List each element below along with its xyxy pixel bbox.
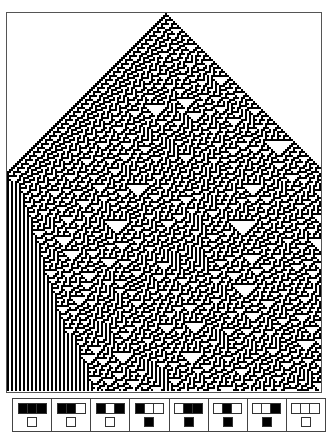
- black-cell-icon: [223, 404, 232, 413]
- white-cell-icon: [232, 404, 241, 413]
- output-black-cell-icon: [262, 417, 272, 427]
- neighborhood-icon: [96, 403, 125, 414]
- white-cell-icon: [292, 404, 301, 413]
- rule-case-101: [91, 399, 130, 431]
- white-cell-icon: [175, 404, 184, 413]
- white-cell-icon: [214, 404, 223, 413]
- white-cell-icon: [310, 404, 319, 413]
- black-cell-icon: [58, 404, 67, 413]
- cellular-automaton-pattern: [6, 12, 322, 393]
- neighborhood-icon: [18, 403, 47, 414]
- black-cell-icon: [193, 404, 202, 413]
- output-black-cell-icon: [144, 417, 154, 427]
- neighborhood-icon: [135, 403, 164, 414]
- black-cell-icon: [28, 404, 37, 413]
- black-cell-icon: [19, 404, 28, 413]
- output-white-cell-icon: [301, 417, 311, 427]
- rule-case-100: [130, 399, 169, 431]
- title-strip: [60, 0, 200, 6]
- black-cell-icon: [136, 404, 145, 413]
- black-cell-icon: [97, 404, 106, 413]
- neighborhood-icon: [252, 403, 281, 414]
- output-black-cell-icon: [223, 417, 233, 427]
- output-white-cell-icon: [105, 417, 115, 427]
- white-cell-icon: [145, 404, 154, 413]
- black-cell-icon: [37, 404, 46, 413]
- white-cell-icon: [106, 404, 115, 413]
- output-white-cell-icon: [66, 417, 76, 427]
- black-cell-icon: [67, 404, 76, 413]
- neighborhood-icon: [291, 403, 320, 414]
- black-cell-icon: [271, 404, 280, 413]
- neighborhood-icon: [213, 403, 242, 414]
- rule-case-001: [248, 399, 287, 431]
- white-cell-icon: [76, 404, 85, 413]
- output-white-cell-icon: [27, 417, 37, 427]
- white-cell-icon: [262, 404, 271, 413]
- rule-case-111: [13, 399, 52, 431]
- rule-case-011: [170, 399, 209, 431]
- black-cell-icon: [115, 404, 124, 413]
- rule-case-000: [287, 399, 325, 431]
- white-cell-icon: [301, 404, 310, 413]
- rule-case-010: [209, 399, 248, 431]
- neighborhood-icon: [57, 403, 86, 414]
- output-black-cell-icon: [184, 417, 194, 427]
- white-cell-icon: [154, 404, 163, 413]
- neighborhood-icon: [174, 403, 203, 414]
- rule-case-110: [52, 399, 91, 431]
- white-cell-icon: [253, 404, 262, 413]
- automaton-canvas: [7, 13, 321, 391]
- black-cell-icon: [184, 404, 193, 413]
- rule-legend: [12, 398, 326, 432]
